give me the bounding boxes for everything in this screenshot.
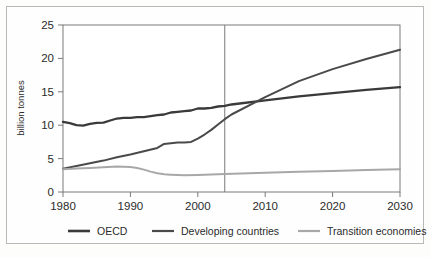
y-tick-label: 10: [41, 119, 54, 131]
y-tick-label: 5: [48, 153, 54, 165]
y-tick-label: 15: [41, 86, 54, 98]
x-axis-ticks: 198019902000201020202030: [50, 192, 413, 212]
legend-label-1: Developing countries: [181, 225, 279, 237]
x-tick-label: 2010: [252, 200, 278, 212]
x-tick-label: 1990: [118, 200, 144, 212]
legend-label-2: Transition economies: [327, 225, 426, 237]
y-tick-label: 0: [48, 186, 54, 198]
figure-container: 0510152025 198019902000201020202030 bill…: [0, 0, 430, 257]
x-tick-label: 1980: [50, 200, 76, 212]
y-axis-ticks: 0510152025: [41, 19, 63, 198]
x-tick-label: 2020: [320, 200, 346, 212]
line-chart: 0510152025 198019902000201020202030 bill…: [0, 0, 430, 257]
x-tick-label: 2000: [185, 200, 211, 212]
y-axis-title: billion tonnes: [15, 80, 26, 136]
chart-legend: OECDDeveloping countriesTransition econo…: [68, 225, 426, 237]
x-tick-label: 2030: [387, 200, 413, 212]
y-tick-label: 20: [41, 52, 54, 64]
y-tick-label: 25: [41, 19, 54, 31]
legend-label-0: OECD: [97, 225, 128, 237]
